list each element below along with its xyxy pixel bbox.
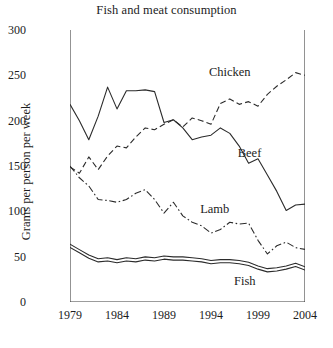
plot-area xyxy=(70,30,305,302)
x-tick-label: 1994 xyxy=(188,309,234,321)
chart-title: Fish and meat consumption xyxy=(0,3,333,18)
y-tick-label: 0 xyxy=(0,296,26,308)
series-fish-edge-0 xyxy=(70,244,305,268)
series-beef xyxy=(70,87,305,210)
x-tick-label: 1989 xyxy=(141,309,187,321)
x-tick-label: 2004 xyxy=(282,309,328,321)
y-tick-label: 50 xyxy=(0,251,26,263)
x-tick-label: 1984 xyxy=(94,309,140,321)
y-tick-label: 100 xyxy=(0,205,26,217)
y-tick-label: 150 xyxy=(0,160,26,172)
x-tick-label: 1999 xyxy=(235,309,281,321)
y-tick-label: 250 xyxy=(0,69,26,81)
y-tick-label: 300 xyxy=(0,24,26,36)
series-line-chicken xyxy=(70,73,305,174)
series-line-beef xyxy=(70,87,305,210)
series-chicken xyxy=(70,73,305,174)
chart-figure: Fish and meat consumption Grams per pers… xyxy=(0,0,333,348)
chart-canvas xyxy=(70,30,305,302)
y-tick-label: 200 xyxy=(0,115,26,127)
series-fish xyxy=(70,244,305,272)
x-tick-label: 1979 xyxy=(47,309,93,321)
